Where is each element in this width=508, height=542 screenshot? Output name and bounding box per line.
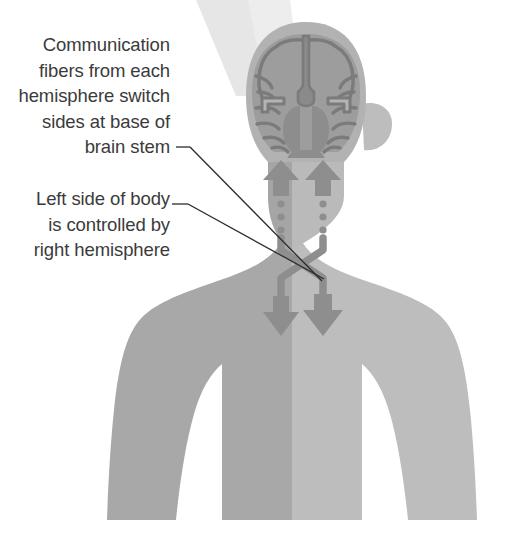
dotted-tract-right <box>319 200 326 233</box>
ear-right-icon <box>362 103 392 150</box>
dotted-tract-left <box>277 200 284 233</box>
figure-canvas <box>0 0 508 542</box>
anatomy-figure: Communication fibers from each hemispher… <box>0 0 508 542</box>
head <box>246 22 366 180</box>
